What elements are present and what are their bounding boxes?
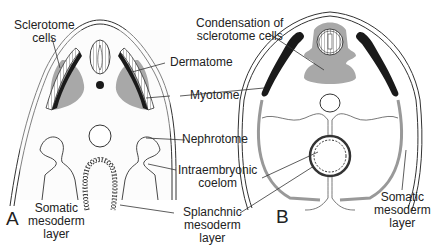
label-splanchnic-mesoderm: Splanchnic mesoderm layer bbox=[183, 206, 242, 245]
notochord-a bbox=[96, 81, 104, 89]
dorsal-aorta-a bbox=[89, 125, 111, 147]
panel-a-embryo bbox=[10, 20, 176, 210]
label-intraembryonic-coelom: Intraembryonic coelom bbox=[178, 164, 257, 190]
myotome-right-b bbox=[356, 32, 398, 96]
label-somatic-mesoderm-a: Somatic mesoderm layer bbox=[28, 202, 85, 241]
dorsal-aorta-b bbox=[320, 94, 340, 112]
label-sclerotome-cells: Sclerotome cells bbox=[14, 19, 75, 45]
panel-label-b: B bbox=[276, 206, 289, 228]
label-condensation: Condensation of sclerotome cells bbox=[196, 17, 283, 43]
label-myotome: Myotome bbox=[190, 89, 239, 102]
label-somatic-mesoderm-b: Somatic mesoderm layer bbox=[374, 191, 431, 230]
panel-label-a: A bbox=[6, 208, 19, 230]
label-dermatome: Dermatome bbox=[170, 56, 233, 69]
label-nephrotome: Nephrotome bbox=[182, 133, 248, 146]
